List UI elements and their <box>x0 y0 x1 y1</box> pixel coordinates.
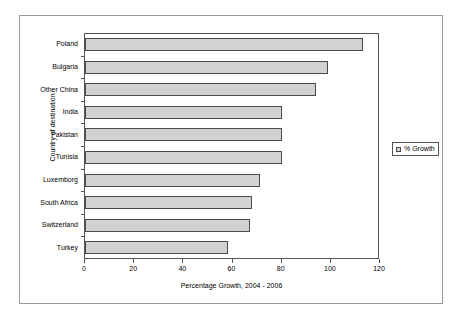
y-axis-tick-label: Switzerland <box>0 221 78 229</box>
x-axis-tick-label: 100 <box>315 265 345 272</box>
bar-row <box>85 147 378 170</box>
plot-area <box>84 33 379 259</box>
bar <box>85 106 282 119</box>
bar <box>85 241 228 254</box>
bar-row <box>85 34 378 57</box>
y-axis-tick-label: Pakistan <box>0 131 78 139</box>
bar-row <box>85 170 378 193</box>
x-axis-tick-label: 0 <box>69 265 99 272</box>
bar-row <box>85 57 378 80</box>
x-axis-tick-label: 120 <box>364 265 394 272</box>
bar-row <box>85 192 378 215</box>
x-axis-title: Percentage Growth, 2004 - 2006 <box>84 282 379 289</box>
x-axis-tick-label: 40 <box>167 265 197 272</box>
x-axis-tick <box>182 259 183 263</box>
x-axis-tick <box>379 259 380 263</box>
y-axis-tick-label: Poland <box>0 40 78 48</box>
bar <box>85 61 328 74</box>
bar <box>85 219 250 232</box>
bar <box>85 196 252 209</box>
x-axis-tick <box>232 259 233 263</box>
bar-row <box>85 124 378 147</box>
bar <box>85 83 316 96</box>
legend: % Growth <box>392 142 439 156</box>
x-axis-tick-label: 80 <box>266 265 296 272</box>
y-axis-tick-label: Other China <box>0 86 78 94</box>
bar <box>85 128 282 141</box>
x-axis-tick-label: 60 <box>217 265 247 272</box>
bar-row <box>85 237 378 260</box>
bar <box>85 174 260 187</box>
y-axis-tick-label: Turkey <box>0 244 78 252</box>
y-axis-tick-label: India <box>0 108 78 116</box>
bar <box>85 151 282 164</box>
chart-frame: Country of destination PolandBulgariaOth… <box>19 15 443 304</box>
legend-swatch-icon <box>396 147 401 152</box>
x-axis-tick <box>281 259 282 263</box>
y-axis-tick-label: Bulgaria <box>0 63 78 71</box>
bar-row <box>85 102 378 125</box>
legend-label: % Growth <box>404 145 435 153</box>
y-axis-tick-label: Tunisia <box>0 153 78 161</box>
x-axis-tick <box>330 259 331 263</box>
bar-row <box>85 79 378 102</box>
y-axis-tick-label: South Africa <box>0 199 78 207</box>
x-axis-tick <box>133 259 134 263</box>
bar-row <box>85 215 378 238</box>
y-axis-tick-label: Luxemborg <box>0 176 78 184</box>
bar <box>85 38 363 51</box>
x-axis-tick <box>84 259 85 263</box>
x-axis-tick-label: 20 <box>118 265 148 272</box>
